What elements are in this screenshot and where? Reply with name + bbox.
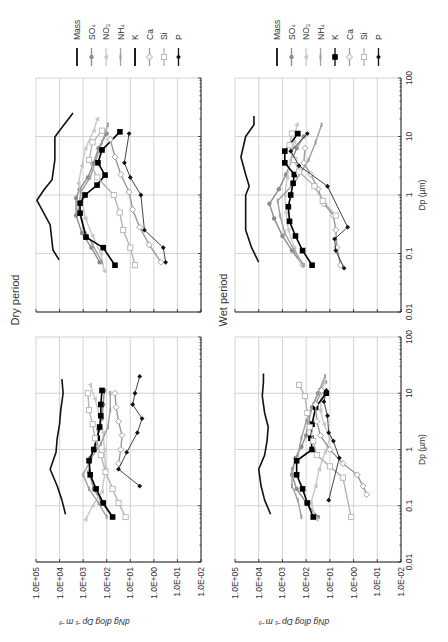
legend-label: Mass: [72, 20, 82, 40]
legend-item: K: [130, 34, 140, 66]
legend-label: Si: [159, 32, 169, 40]
wet-period-title: Wet period: [217, 274, 229, 327]
y-axis-label: dNg dlog Dp⁻¹ m⁻³: [258, 617, 330, 627]
legend-label: NH₄: [316, 24, 326, 40]
legend-item: Si: [159, 32, 169, 66]
chart-panel-1: [36, 78, 201, 312]
y-tick-label: 1.0E+01: [125, 567, 135, 599]
legend-item: Mass: [272, 20, 282, 66]
legend-label: NO₃: [301, 24, 311, 40]
chart-panel-4: [235, 337, 401, 562]
legend-label: P: [374, 34, 384, 40]
legend-item: SO₄: [287, 24, 297, 66]
y-tick-label: 1.0E-01: [172, 567, 182, 597]
series-mass: [37, 113, 73, 260]
y-tick-label: 1.0E+02: [301, 567, 311, 599]
y-tick-label: 1.0E+00: [349, 567, 359, 599]
x-tick-label: 100: [404, 330, 414, 344]
legend-item: NO₃: [301, 24, 311, 66]
chart-panel-3: [36, 337, 201, 562]
figure-canvas: Dry period Wet period MassSO₄NO₃NH₄KCaSi…: [0, 0, 448, 642]
y-tick-label: 1.0E+01: [325, 567, 335, 599]
legend-label: NH₄: [116, 24, 126, 40]
legend-1: MassSO₄NO₃NH₄KCaSiP: [72, 20, 184, 66]
series-so: [267, 134, 306, 267]
legend-label: SO₄: [287, 24, 297, 40]
chart-panel-2: [235, 78, 401, 312]
legend-item: Ca: [145, 29, 155, 66]
legend-item: NO₃: [101, 24, 111, 66]
legend-item: K: [330, 34, 340, 66]
series-mass: [241, 116, 259, 262]
x-axis-label: Dp (µm): [417, 434, 427, 465]
legend-label: Ca: [145, 29, 155, 40]
legend-label: Mass: [272, 20, 282, 40]
legend-label: NO₃: [101, 24, 111, 40]
legend-label: Ca: [345, 29, 355, 40]
legend-label: Si: [359, 32, 369, 40]
x-axis-label: Dp (µm): [417, 179, 427, 210]
legend-label: SO₄: [87, 24, 97, 40]
legend-item: SO₄: [87, 24, 97, 66]
y-tick-label: 1.0E+03: [277, 567, 287, 599]
series-ca: [112, 390, 125, 466]
y-tick-label: 1.0E+02: [102, 567, 112, 599]
aerosol-size-distribution-figure: Dry period Wet period MassSO₄NO₃NH₄KCaSi…: [0, 0, 448, 642]
series-k: [282, 131, 315, 268]
legends: MassSO₄NO₃NH₄KCaSiPMassSO₄NO₃NH₄KCaSiP: [72, 20, 384, 66]
legend-item: NH₄: [316, 24, 326, 66]
y-tick-label: 1.0E+03: [78, 567, 88, 599]
legend-item: P: [174, 34, 184, 66]
series-p: [322, 388, 342, 502]
legend-label: K: [330, 34, 340, 40]
y-tick-label: 1.0E+04: [254, 567, 264, 599]
legend-label: K: [130, 34, 140, 40]
legend-item: Ca: [345, 29, 355, 66]
y-axis-label: dNg dlog Dp⁻¹ m⁻³: [58, 617, 130, 627]
y-tick-label: 1.0E+04: [55, 567, 65, 599]
legend-item: Mass: [72, 20, 82, 66]
x-tick-label: 0.1: [404, 500, 414, 512]
legend-2: MassSO₄NO₃NH₄KCaSiP: [272, 20, 384, 66]
y-tick-label: 1.0E-02: [196, 567, 206, 597]
x-tick-label: 10: [404, 132, 414, 142]
y-tick-label: 1.0E-01: [372, 567, 382, 597]
legend-item: Si: [359, 32, 369, 66]
y-tick-label: 1.0E+05: [230, 567, 240, 599]
legend-item: P: [374, 34, 384, 66]
x-tick-label: 100: [404, 71, 414, 85]
series-mass: [50, 379, 65, 514]
x-tick-label: 1: [404, 192, 414, 197]
y-tick-label: 1.0E+00: [149, 567, 159, 599]
series-k: [77, 129, 122, 268]
x-tick-label: 0.01: [404, 303, 414, 320]
x-tick-label: 0.1: [404, 247, 414, 259]
series-mass: [259, 374, 271, 515]
legend-item: NH₄: [116, 24, 126, 66]
x-tick-label: 1: [404, 447, 414, 452]
x-tick-label: 10: [404, 388, 414, 398]
series-p: [288, 131, 350, 270]
dry-period-title: Dry period: [9, 275, 21, 326]
y-tick-label: 1.0E+05: [31, 567, 41, 599]
x-tick-label: 0.01: [404, 553, 414, 570]
legend-label: P: [174, 34, 184, 40]
